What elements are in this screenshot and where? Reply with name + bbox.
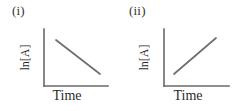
panel-ii-axes: [164, 29, 229, 86]
panel-ii-y-axis-label: ln[A]: [138, 30, 151, 86]
panel-i-y-axis-label: ln[A]: [19, 30, 32, 86]
figure-container: (i) ln[A] Time (ii) ln[A]: [0, 0, 235, 111]
panel-i-axes: [44, 29, 108, 86]
data-line-decreasing: [56, 40, 100, 74]
panel-i: (i) ln[A] Time: [0, 0, 117, 111]
panel-i-x-axis-label: Time: [36, 88, 98, 103]
data-line-increasing: [174, 38, 216, 74]
panel-ii: (ii) ln[A] Time: [117, 0, 234, 111]
panel-ii-x-axis-label: Time: [157, 88, 219, 103]
